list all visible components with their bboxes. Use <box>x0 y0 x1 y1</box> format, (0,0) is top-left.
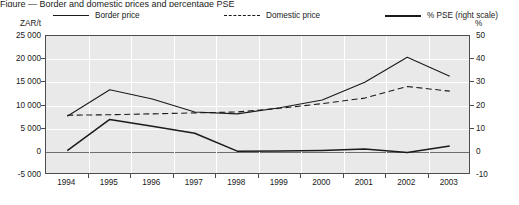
series-line-pse-right-scale <box>67 119 450 152</box>
y-axis-right-tick-label: -10 <box>476 170 516 179</box>
legend-label: Domestic price <box>266 9 320 22</box>
y-axis-right-tick-label: 30 <box>476 77 516 86</box>
x-axis-tick-label: 1998 <box>227 178 245 187</box>
line-dashed-icon <box>224 11 260 20</box>
y-axis-right-tick-label: 0 <box>476 146 516 155</box>
chart-figure: Figure — Border and domestic prices and … <box>0 0 519 205</box>
x-axis-tick-label: 2000 <box>312 178 330 187</box>
legend-label: Border price <box>95 9 140 22</box>
legend-item-border-price: Border price <box>53 9 140 22</box>
y-axis-left-tick-label: 0 <box>0 146 41 155</box>
x-axis-tick-label: 2003 <box>440 178 458 187</box>
x-axis-tick-label: 1996 <box>142 178 160 187</box>
figure-title: Figure — Border and domestic prices and … <box>0 0 519 7</box>
line-thick-icon <box>385 11 421 20</box>
legend-item-domestic-price: Domestic price <box>224 9 320 22</box>
y-axis-unit-right: % <box>475 19 515 28</box>
series-line-border-price <box>67 57 450 116</box>
y-axis-right-tick-label: 20 <box>476 100 516 109</box>
y-axis-left-tick-label: 5 000 <box>0 123 41 132</box>
x-axis-tick-label: 2001 <box>355 178 373 187</box>
x-axis-tick-label: 1995 <box>100 178 118 187</box>
y-axis-left-tick-label: 10 000 <box>0 100 41 109</box>
y-axis-left-tick-label: 15 000 <box>0 77 41 86</box>
x-axis-tick-label: 2002 <box>397 178 415 187</box>
x-axis-tick-label: 1994 <box>57 178 75 187</box>
y-axis-right-tick-label: 10 <box>476 123 516 132</box>
y-axis-left-tick-label: 20 000 <box>0 54 41 63</box>
y-axis-right-tick-label: 50 <box>476 31 516 40</box>
y-axis-left-tick-label: 25 000 <box>0 31 41 40</box>
x-axis-tick-label: 1997 <box>185 178 203 187</box>
y-axis-unit-left: ZAR/t <box>0 19 41 28</box>
series-lines <box>46 36 471 175</box>
y-axis-left-tick-label: -5 000 <box>0 170 41 179</box>
y-axis-right-tick-label: 40 <box>476 54 516 63</box>
plot-area <box>45 35 470 174</box>
x-axis-tick-label: 1999 <box>270 178 288 187</box>
line-solid-icon <box>53 11 89 20</box>
chart-legend: Border price Domestic price % PSE (right… <box>45 9 470 22</box>
